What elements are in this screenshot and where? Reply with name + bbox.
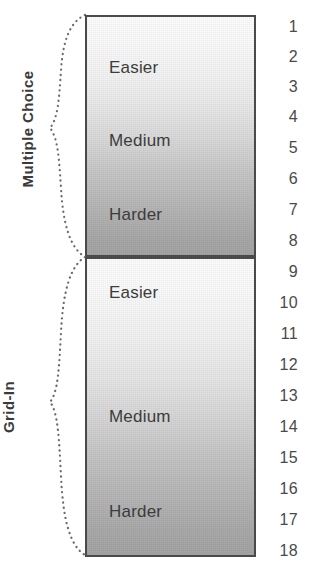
- difficulty-label-easier-mc: Easier: [109, 58, 158, 78]
- question-number: 5: [289, 139, 298, 157]
- question-number: 6: [289, 170, 298, 188]
- question-number: 8: [289, 232, 298, 250]
- question-number: 18: [280, 542, 298, 560]
- question-number: 1: [289, 18, 298, 36]
- difficulty-label-harder-gi: Harder: [109, 502, 162, 522]
- difficulty-label-harder-mc: Harder: [109, 205, 162, 225]
- difficulty-box-multiple-choice: Easier Medium Harder: [85, 15, 256, 257]
- difficulty-label-easier-gi: Easier: [109, 283, 158, 303]
- difficulty-label-medium-gi: Medium: [109, 407, 171, 427]
- group-label-multiple-choice: Multiple Choice: [19, 49, 37, 209]
- dotted-brace-multiple-choice: [40, 10, 88, 262]
- question-number: 3: [289, 78, 298, 96]
- group-label-grid-in: Grid-In: [0, 367, 18, 447]
- question-number: 12: [280, 356, 298, 374]
- difficulty-box-grid-in: Easier Medium Harder: [85, 257, 256, 557]
- question-number: 14: [280, 418, 298, 436]
- question-number: 13: [280, 387, 298, 405]
- difficulty-progression-diagram: Multiple Choice Easier Medium Harder Gri…: [0, 0, 312, 574]
- difficulty-label-medium-mc: Medium: [109, 131, 171, 151]
- dotted-brace-grid-in: [40, 252, 88, 562]
- question-number: 17: [280, 511, 298, 529]
- question-number: 16: [280, 480, 298, 498]
- question-number: 15: [280, 449, 298, 467]
- question-number: 10: [280, 294, 298, 312]
- question-number: 9: [289, 263, 298, 281]
- question-number: 2: [289, 48, 298, 66]
- question-number: 4: [289, 108, 298, 126]
- question-number-column: 1 2 3 4 5 6 7 8 9 10 11 12 13 14 15 16 1…: [262, 0, 306, 574]
- question-number: 11: [281, 325, 298, 343]
- question-number: 7: [289, 201, 298, 219]
